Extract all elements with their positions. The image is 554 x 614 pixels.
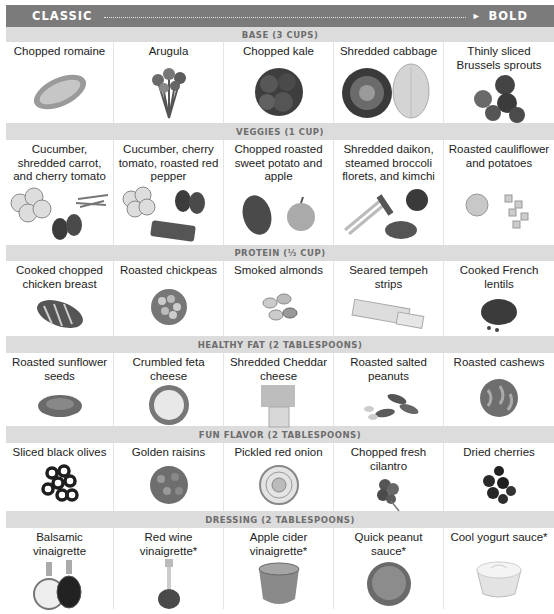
section-row-veggies: Cucumber, shredded carrot, and cherry to… (6, 140, 554, 245)
item-label: Shredded Cheddar cheese (224, 356, 333, 383)
list-item: Shredded Cheddar cheese (224, 353, 334, 426)
item-label: Thinly sliced Brussels sprouts (444, 45, 554, 72)
cabbage-icon (341, 61, 437, 121)
list-item: Apple cider vinaigrette* (224, 528, 334, 609)
brussels-sprouts-icon (469, 73, 529, 123)
list-item: Chopped kale (224, 42, 334, 123)
item-label: Red wine vinaigrette* (114, 531, 223, 558)
list-item: Roasted cauliflower and potatoes (444, 140, 554, 245)
item-label: Apple cider vinaigrette* (224, 531, 333, 558)
list-item: Seared tempeh strips (334, 261, 444, 336)
item-label: Seared tempeh strips (334, 264, 443, 291)
classic-to-bold-scale: CLASSIC ► BOLD (6, 5, 554, 27)
red-wine-vinaigrette-icon (151, 559, 187, 609)
item-label: Shredded cabbage (337, 45, 440, 59)
scale-right-label: BOLD (489, 9, 528, 23)
cucumber-tomato-pepper-icon (117, 185, 221, 243)
salad-builder-chart: CLASSIC ► BOLD BASE (3 CUPS) Chopped rom… (6, 5, 554, 609)
dried-cherries-icon (477, 463, 521, 507)
list-item: Chopped fresh cilantro (334, 443, 444, 511)
list-item: Red wine vinaigrette* (114, 528, 224, 609)
sunflower-seeds-icon (35, 390, 85, 420)
list-item: Thinly sliced Brussels sprouts (444, 42, 554, 123)
section-header-base: BASE (3 CUPS) (6, 27, 554, 42)
apple-cider-vinaigrette-icon (255, 559, 303, 609)
section-row-dressing: Balsamic vinaigrette Red wine vinaigrett… (6, 528, 554, 609)
item-label: Chopped fresh cilantro (334, 446, 443, 473)
balsamic-bottles-icon (32, 558, 88, 614)
arugula-icon (144, 62, 194, 120)
list-item: Cucumber, cherry tomato, roasted red pep… (114, 140, 224, 245)
arrow-right-icon: ► (472, 11, 481, 21)
chicken-breast-icon (32, 296, 88, 332)
list-item: Chopped roasted sweet potato and apple (224, 140, 334, 245)
red-onion-icon (257, 463, 301, 507)
item-label: Pickled red onion (231, 446, 325, 460)
item-label: Chopped kale (240, 45, 317, 59)
list-item: Roasted sunflower seeds (6, 353, 114, 426)
item-label: Arugula (146, 45, 192, 59)
item-label: Dried cherries (460, 446, 538, 460)
list-item: Cucumber, shredded carrot, and cherry to… (6, 140, 114, 245)
item-label: Roasted chickpeas (117, 264, 220, 278)
cauliflower-potatoes-icon (451, 183, 547, 233)
list-item: Shredded daikon, steamed broccoli floret… (334, 140, 444, 245)
list-item: Smoked almonds (224, 261, 334, 336)
item-label: Golden raisins (129, 446, 209, 460)
list-item: Cool yogurt sauce* (444, 528, 554, 609)
list-item: Balsamic vinaigrette (6, 528, 114, 609)
item-label: Smoked almonds (231, 264, 326, 278)
sweet-potato-apple-icon (231, 189, 327, 239)
almonds-icon (254, 287, 304, 327)
list-item: Dried cherries (444, 443, 554, 511)
item-label: Cucumber, shredded carrot, and cherry to… (6, 143, 113, 184)
list-item: Sliced black olives (6, 443, 114, 511)
kale-icon (249, 62, 309, 120)
item-label: Quick peanut sauce* (334, 531, 443, 558)
section-header-veggies: VEGGIES (1 CUP) (6, 123, 554, 140)
list-item: Roasted chickpeas (114, 261, 224, 336)
list-item: Chopped romaine (6, 42, 114, 123)
section-row-healthy-fat: Roasted sunflower seeds Crumbled feta ch… (6, 353, 554, 426)
item-label: Balsamic vinaigrette (6, 531, 113, 558)
item-label: Cucumber, cherry tomato, roasted red pep… (114, 143, 223, 184)
item-label: Roasted sunflower seeds (6, 356, 113, 383)
chickpeas-icon (149, 287, 189, 327)
section-row-base: Chopped romaine Arugula Chopped kale Shr… (6, 42, 554, 123)
section-header-dressing: DRESSING (2 TABLESPOONS) (6, 511, 554, 528)
item-label: Roasted salted peanuts (334, 356, 443, 383)
list-item: Shredded cabbage (334, 42, 444, 123)
item-label: Cooked chopped chicken breast (6, 264, 113, 291)
list-item: Quick peanut sauce* (334, 528, 444, 609)
olives-icon (40, 463, 80, 507)
list-item: Golden raisins (114, 443, 224, 511)
raisins-icon (145, 463, 193, 507)
peanuts-icon (357, 387, 421, 423)
list-item: Cooked chopped chicken breast (6, 261, 114, 336)
item-label: Cool yogurt sauce* (447, 531, 550, 545)
item-label: Cooked French lentils (444, 264, 554, 291)
dotted-line (104, 17, 465, 18)
cilantro-icon (371, 473, 407, 513)
item-label: Chopped romaine (11, 45, 108, 59)
item-label: Sliced black olives (10, 446, 110, 460)
item-label: Crumbled feta cheese (114, 356, 223, 383)
item-label: Roasted cauliflower and potatoes (444, 143, 554, 170)
daikon-broccoli-kimchi-icon (341, 186, 437, 242)
feta-icon (147, 383, 191, 427)
list-item: Roasted cashews (444, 353, 554, 426)
list-item: Arugula (114, 42, 224, 123)
section-header-protein: PROTEIN (⅓ CUP) (6, 245, 554, 261)
lentils-icon (477, 294, 521, 334)
cashews-icon (474, 376, 524, 420)
item-label: Chopped roasted sweet potato and apple (224, 143, 333, 184)
scale-left-label: CLASSIC (32, 9, 92, 23)
peanut-sauce-icon (364, 559, 414, 609)
item-label: Shredded daikon, steamed broccoli floret… (334, 143, 443, 184)
yogurt-sauce-icon (471, 554, 527, 600)
list-item: Crumbled feta cheese (114, 353, 224, 426)
section-row-protein: Cooked chopped chicken breast Roasted ch… (6, 261, 554, 336)
cheddar-icon (257, 383, 301, 429)
romaine-icon (28, 66, 92, 116)
cucumber-carrot-tomato-icon (8, 185, 112, 243)
